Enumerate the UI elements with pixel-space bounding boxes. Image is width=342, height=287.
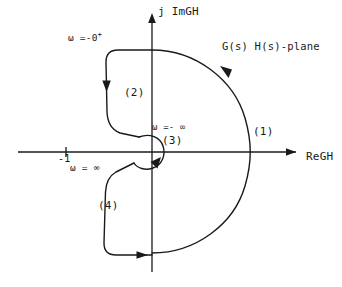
omega-minus-zero-plus-label: ω =-0+ [68, 33, 102, 43]
imaginary-axis-label: j ImGH [158, 6, 199, 17]
branch-4-label: (4) [98, 200, 118, 211]
branch-1-label: (1) [253, 126, 273, 137]
nyquist-diagram: j ImGH ReGH G(s) H(s)-plane ω =-0+ ω = ∞… [0, 0, 342, 287]
minus-one-tick-label: -1 [58, 154, 70, 164]
branch-2-arrowhead [102, 81, 111, 93]
omega-minus-infinity-label: ω =- ∞ [152, 123, 186, 132]
real-axis-label: ReGH [306, 151, 333, 162]
plane-label: G(s) H(s)-plane [222, 41, 320, 52]
branch-4-arrowhead [137, 251, 149, 259]
omega-minus-zero-plus-text: ω =-0 [68, 32, 98, 43]
omega-plus-infinity-label: ω = ∞ [70, 163, 100, 173]
imaginary-axis-arrowhead [148, 13, 156, 23]
branch-3-label: (3) [162, 135, 182, 146]
omega-minus-zero-plus-superscript: + [98, 30, 103, 39]
branch-2-label: (2) [124, 87, 144, 98]
branch-1-arrowhead [220, 66, 232, 78]
real-axis-arrowhead [286, 148, 296, 156]
